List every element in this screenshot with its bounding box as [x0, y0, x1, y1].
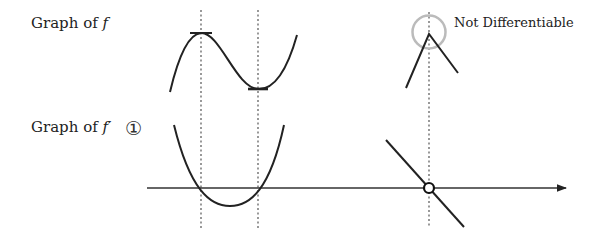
- open-point-marker: [424, 183, 434, 193]
- dotted-guides: [201, 10, 429, 228]
- f-prime-parabola: [174, 125, 284, 206]
- diagram-canvas: [0, 0, 594, 233]
- f-corner-curve: [406, 34, 458, 88]
- f-curve: [170, 33, 297, 92]
